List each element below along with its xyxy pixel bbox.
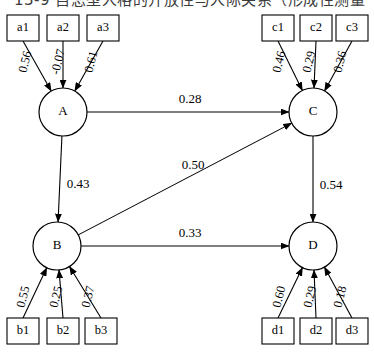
path-diagram: 13-9 自恋型人格的开放性与人际关系（形成性测量 a1a2a3c1c2c3b1…	[0, 0, 374, 352]
loading-value-c1: 0.46	[269, 49, 288, 74]
indicator-label-b3: b3	[95, 323, 108, 337]
loading-value-b3: 0.37	[78, 284, 97, 309]
indicator-label-b2: b2	[57, 323, 70, 337]
path-value-b-to-d: 0.33	[179, 225, 202, 240]
indicator-label-c3: c3	[346, 20, 358, 34]
loading-value-d3: 0.18	[330, 284, 349, 309]
indicator-label-a3: a3	[97, 20, 109, 34]
latent-label-D: D	[308, 237, 317, 252]
edge-label-group: 0.56-0.070.610.460.290.360.550.250.370.6…	[13, 47, 349, 309]
path-value-b-to-c: 0.50	[182, 157, 205, 172]
loading-value-c2: 0.29	[299, 49, 318, 74]
figure-caption-text: 13-9 自恋型人格的开放性与人际关系（形成性测量	[14, 0, 365, 9]
indicator-label-c2: c2	[310, 20, 322, 34]
path-value-a-to-c: 0.28	[179, 91, 202, 106]
indicator-label-a1: a1	[17, 20, 29, 34]
latent-label-A: A	[58, 103, 68, 118]
loading-value-a2: -0.07	[48, 47, 68, 76]
loading-value-a1: 0.56	[15, 49, 34, 74]
loading-value-c3: 0.36	[330, 49, 349, 74]
indicator-label-b1: b1	[17, 323, 30, 337]
sem-canvas: a1a2a3c1c2c3b1b2b3d1d2d3 ABCD 0.56-0.070…	[0, 0, 374, 352]
indicator-label-d1: d1	[272, 323, 285, 337]
path-value-c-to-d: 0.54	[320, 177, 343, 192]
figure-caption: 13-9 自恋型人格的开放性与人际关系（形成性测量	[0, 0, 374, 11]
indicator-label-d2: d2	[310, 323, 323, 337]
indicator-label-a2: a2	[57, 20, 69, 34]
structural-edge-b-to-c	[78, 123, 291, 235]
indicator-label-c1: c1	[272, 20, 284, 34]
indicator-label-d3: d3	[346, 323, 359, 337]
loading-value-a3: 0.61	[81, 49, 100, 74]
structural-edge-a-to-b	[58, 136, 62, 222]
latent-label-B: B	[53, 237, 62, 252]
loading-value-b2: 0.25	[46, 284, 65, 309]
loading-value-d2: 0.29	[300, 284, 319, 309]
loading-value-d1: 0.60	[269, 284, 288, 309]
path-value-a-to-b: 0.43	[67, 176, 90, 191]
latent-label-C: C	[309, 103, 318, 118]
